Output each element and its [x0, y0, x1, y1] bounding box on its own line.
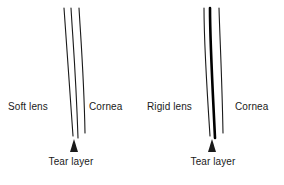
soft-lens-front-surface-curve — [64, 8, 73, 136]
cornea-label-left: Cornea — [89, 101, 122, 113]
tear-layer-label-left: Tear layer — [0, 156, 142, 168]
tear-layer-label-right: Tear layer — [142, 156, 284, 168]
rigid-lens-panel: Rigid lens Cornea Tear layer — [142, 0, 284, 185]
rigid-lens-back-surface-curve — [210, 8, 215, 138]
rigid-lens-label: Rigid lens — [147, 101, 192, 113]
soft-lens-panel: Soft lens Cornea Tear layer — [0, 0, 142, 185]
cornea-label-right: Cornea — [235, 101, 268, 113]
cornea-surface-curve — [79, 8, 85, 133]
contact-lens-fit-diagram: Soft lens Cornea Tear layer Rigid lens C… — [0, 0, 284, 185]
tear-layer-arrow-marker — [208, 139, 216, 152]
cornea-surface-curve — [219, 8, 223, 133]
soft-lens-label: Soft lens — [8, 101, 48, 113]
tear-layer-arrow-marker — [70, 139, 78, 152]
